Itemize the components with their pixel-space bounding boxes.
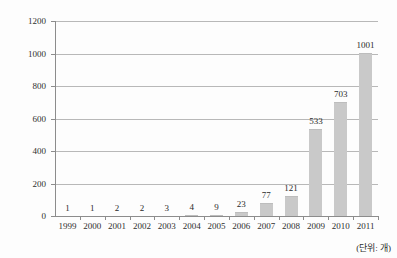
x-axis-tick <box>378 216 379 220</box>
bar-value-label: 121 <box>279 183 304 193</box>
x-axis-label: 2010 <box>328 221 353 231</box>
x-axis-label: 2005 <box>204 221 229 231</box>
x-axis-tick <box>254 216 255 220</box>
x-axis-tick <box>229 216 230 220</box>
x-axis-label: 2002 <box>130 221 155 231</box>
x-axis-line <box>55 216 378 217</box>
x-axis-tick <box>204 216 205 220</box>
bar <box>260 203 273 216</box>
bar-chart: (단위: 개) 02004006008001000120011999120002… <box>0 0 397 258</box>
y-axis-line <box>55 21 56 217</box>
bar <box>334 102 347 216</box>
gridline <box>55 86 378 87</box>
x-axis-tick <box>328 216 329 220</box>
bar <box>235 212 248 216</box>
y-axis-label: 200 <box>0 179 46 189</box>
gridline <box>55 54 378 55</box>
x-axis-tick <box>179 216 180 220</box>
bar-value-label: 3 <box>154 203 179 213</box>
x-axis-tick <box>130 216 131 220</box>
gridline <box>55 21 378 22</box>
y-axis-label: 0 <box>0 211 46 221</box>
bar <box>285 196 298 216</box>
gridline <box>55 151 378 152</box>
x-axis-tick <box>353 216 354 220</box>
x-axis-label: 2007 <box>254 221 279 231</box>
x-axis-tick <box>303 216 304 220</box>
bar-value-label: 533 <box>303 116 328 126</box>
gridline <box>55 119 378 120</box>
x-axis-tick <box>154 216 155 220</box>
bar-value-label: 1001 <box>353 40 378 50</box>
x-axis-label: 2006 <box>229 221 254 231</box>
x-axis-label: 1999 <box>55 221 80 231</box>
bar <box>359 53 372 216</box>
bar-value-label: 4 <box>179 202 204 212</box>
x-axis-label: 2004 <box>179 221 204 231</box>
bar-value-label: 23 <box>229 199 254 209</box>
y-axis-label: 400 <box>0 146 46 156</box>
x-axis-label: 2009 <box>303 221 328 231</box>
x-axis-label: 2008 <box>279 221 304 231</box>
gridline <box>55 184 378 185</box>
x-axis-label: 2000 <box>80 221 105 231</box>
y-axis-label: 1000 <box>0 49 46 59</box>
bar-value-label: 2 <box>130 203 155 213</box>
bar <box>309 129 322 216</box>
bar-value-label: 1 <box>55 203 80 213</box>
bar <box>185 215 198 216</box>
y-axis-label: 1200 <box>0 16 46 26</box>
bar-value-label: 77 <box>254 190 279 200</box>
x-axis-tick <box>279 216 280 220</box>
x-axis-tick <box>105 216 106 220</box>
unit-note: (단위: 개) <box>356 241 391 254</box>
x-axis-label: 2011 <box>353 221 378 231</box>
bar-value-label: 703 <box>328 89 353 99</box>
bar-value-label: 9 <box>204 202 229 212</box>
bar <box>210 215 223 216</box>
x-axis-label: 2003 <box>154 221 179 231</box>
y-axis-label: 600 <box>0 114 46 124</box>
bar-value-label: 1 <box>80 203 105 213</box>
bar-value-label: 2 <box>105 203 130 213</box>
x-axis-tick <box>80 216 81 220</box>
y-axis-label: 800 <box>0 81 46 91</box>
x-axis-label: 2001 <box>105 221 130 231</box>
